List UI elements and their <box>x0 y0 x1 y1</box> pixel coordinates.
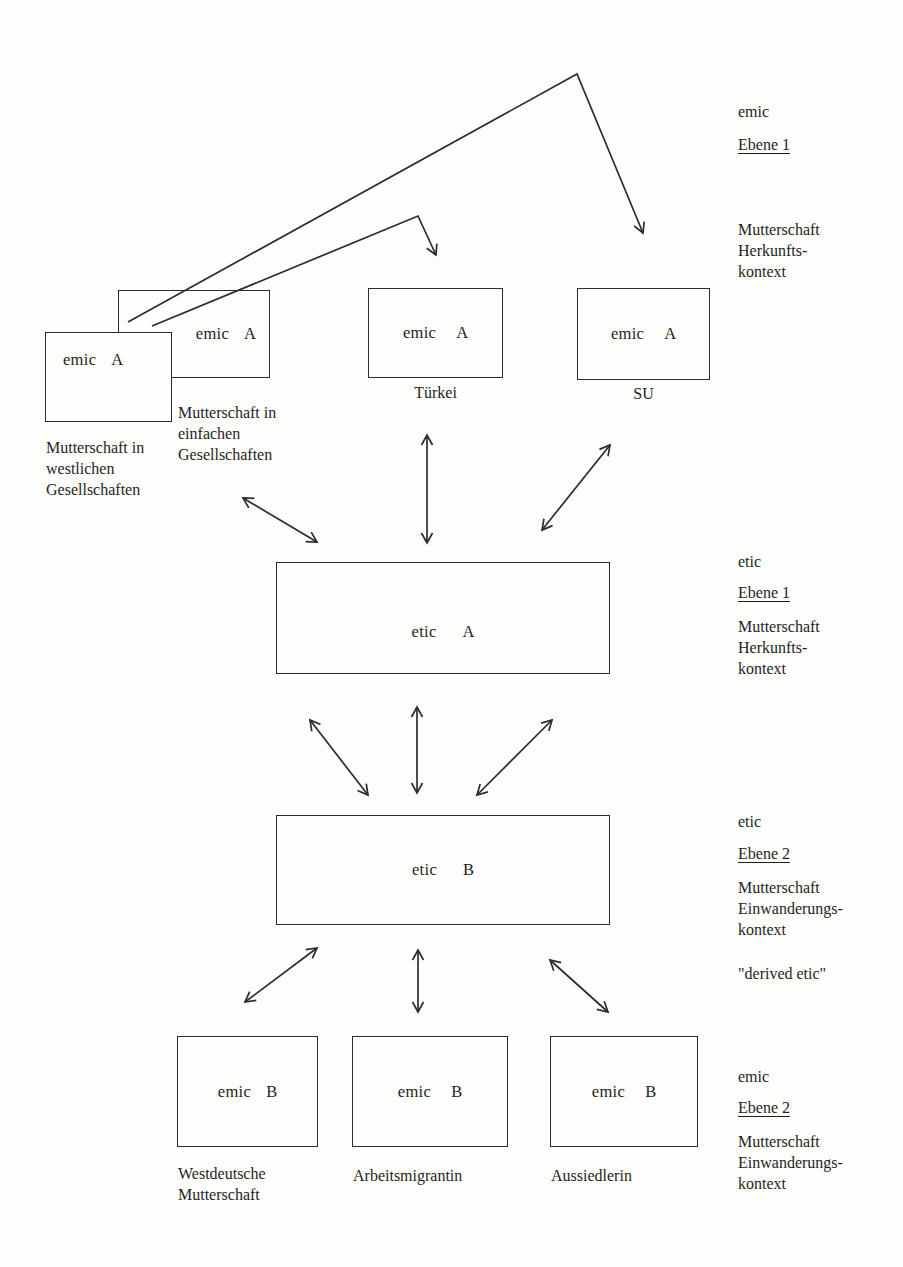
box-emic-a-western: emicA <box>45 332 172 422</box>
double-arrow-eticB-westdeutsche <box>245 948 317 1002</box>
box-label: emic <box>196 324 229 344</box>
box-emic-a-su: emicA <box>577 288 710 380</box>
box-letter: A <box>244 324 256 344</box>
caption-westdeutsche: Westdeutsche Mutterschaft <box>178 1163 266 1205</box>
box-emic-b-aussiedlerin: emicB <box>550 1036 698 1147</box>
box-emic-b-westdeutsche: emicB <box>177 1036 318 1147</box>
side-label-emic-ebene1-lines: Mutterschaft Herkunfts- kontext <box>738 219 903 282</box>
box-label: emic <box>63 350 96 370</box>
caption-tuerkei: Türkei <box>368 382 503 403</box>
box-emic-a-tuerkei: emicA <box>368 288 503 378</box>
side-label-etic-ebene1-lines: Mutterschaft Herkunfts- kontext <box>738 616 903 679</box>
side-label-derived-etic: "derived etic" <box>738 963 903 984</box>
side-label-etic-ebene2-kind: etic <box>738 811 903 832</box>
double-arrow-su-eticA <box>542 445 610 530</box>
box-etic-a: eticA <box>276 562 610 674</box>
double-arrow-western-eticA <box>243 498 317 542</box>
side-label-emic-ebene2-kind: emic <box>738 1066 903 1087</box>
side-label-emic-ebene1-level: Ebene 1 <box>738 134 903 155</box>
caption-su: SU <box>577 383 710 404</box>
side-label-etic-ebene2-level: Ebene 2 <box>738 843 903 864</box>
caption-einfach: Mutterschaft in einfachen Gesellschaften <box>178 402 276 465</box>
caption-aussiedlerin: Aussiedlerin <box>551 1165 632 1186</box>
bent-arrow-western-to-su <box>128 74 643 322</box>
box-emic-b-arbeitsmigrantin: emicB <box>352 1036 508 1147</box>
side-label-etic-ebene1-kind: etic <box>738 551 903 572</box>
side-label-etic-ebene2-lines: Mutterschaft Einwanderungs- kontext <box>738 877 903 940</box>
caption-western: Mutterschaft in westlichen Gesellschafte… <box>46 437 144 500</box>
box-etic-b: eticB <box>276 815 610 925</box>
side-label-etic-ebene1-level: Ebene 1 <box>738 582 903 603</box>
box-letter: A <box>111 350 123 370</box>
double-arrow-eticB-aussiedlerin <box>550 960 608 1012</box>
side-label-emic-ebene2-lines: Mutterschaft Einwanderungs- kontext <box>738 1131 903 1194</box>
side-label-emic-ebene2-level: Ebene 2 <box>738 1097 903 1118</box>
figure-canvas: emicA emicA Mutterschaft in westlichen G… <box>0 0 903 1267</box>
double-arrow-eticA-eticB-left <box>310 720 368 795</box>
double-arrow-eticA-eticB-right <box>477 720 552 795</box>
caption-arbeitsmigrantin: Arbeitsmigrantin <box>353 1165 462 1186</box>
side-label-emic-ebene1-kind: emic <box>738 101 903 122</box>
